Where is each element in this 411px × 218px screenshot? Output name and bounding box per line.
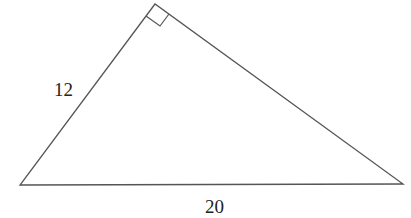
leg-label: 12	[54, 79, 73, 100]
hypotenuse-label: 20	[205, 196, 224, 217]
triangle-svg: 12 20	[0, 0, 411, 218]
triangle-shape	[20, 4, 403, 185]
right-angle-marker	[146, 14, 169, 26]
triangle-diagram: 12 20	[0, 0, 411, 218]
